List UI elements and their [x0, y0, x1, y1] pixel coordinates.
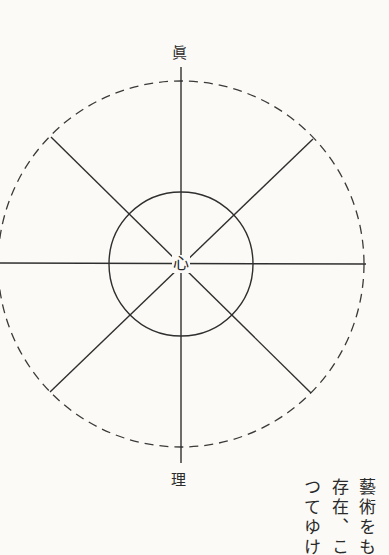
center-label: 心: [172, 255, 190, 273]
side-text-col-1: 藝術をも: [357, 478, 374, 555]
side-text-col-2: 存在、こ: [330, 478, 347, 555]
side-text-col-3: つてゆけ: [302, 478, 319, 555]
bottom-label: 理: [171, 473, 186, 488]
top-label: 眞: [172, 46, 187, 61]
mandala-diagram: [0, 0, 389, 555]
